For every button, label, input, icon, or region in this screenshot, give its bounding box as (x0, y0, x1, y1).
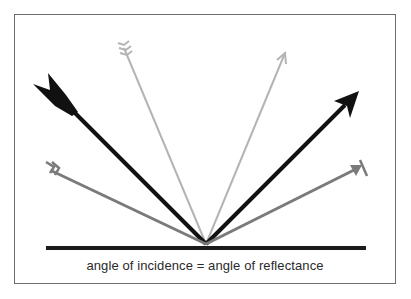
reflection-diagram (0, 0, 411, 299)
reflected-ray-steep (206, 53, 286, 244)
diagram-caption: angle of incidence = angle of reflectanc… (14, 258, 396, 273)
incident-ray-steep (118, 41, 206, 244)
fletching-icon (33, 73, 78, 116)
fletching-icon (46, 162, 59, 175)
reflected-ray-medium (206, 91, 359, 244)
reflected-ray-shallow (206, 160, 367, 244)
incident-ray-shallow (46, 162, 206, 244)
incident-ray-medium (33, 73, 206, 244)
